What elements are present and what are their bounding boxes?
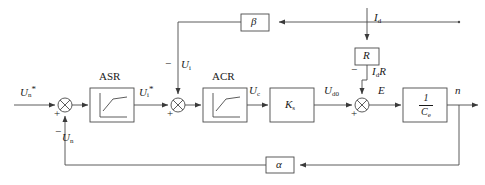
signal-un-feedback: Un bbox=[62, 132, 73, 145]
beta-label: β bbox=[251, 16, 256, 27]
asterisk: * bbox=[31, 84, 36, 94]
r-label: R bbox=[363, 50, 370, 61]
signal-idr: IdR bbox=[372, 66, 386, 79]
sign-summer3-minus: − bbox=[351, 64, 357, 75]
sign-summer1-minus: − bbox=[55, 126, 61, 137]
ce-denominator: Ce bbox=[418, 107, 434, 119]
idr-resistance: R bbox=[379, 65, 386, 77]
ks-label: Ks bbox=[285, 99, 295, 112]
sign-summer2-plus: + bbox=[167, 108, 173, 119]
sign-summer1-plus: + bbox=[54, 108, 60, 119]
acr-caption: ACR bbox=[212, 71, 235, 82]
signal-un-ref: Un* bbox=[20, 85, 36, 99]
asr-caption: ASR bbox=[99, 71, 120, 82]
signal-n: n bbox=[455, 85, 461, 96]
asterisk: * bbox=[149, 84, 154, 94]
signal-ui-feedback: Ui bbox=[181, 59, 191, 72]
ks-subscript: s bbox=[292, 104, 295, 112]
signal-ud0: Ud0 bbox=[324, 85, 339, 98]
signal-uc: Uc bbox=[249, 85, 260, 98]
sign-summer3-plus: + bbox=[351, 108, 357, 119]
ce-fraction: 1 Ce bbox=[418, 93, 434, 118]
ce-numerator: 1 bbox=[418, 93, 434, 104]
alpha-label: α bbox=[276, 159, 282, 170]
signal-e: E bbox=[378, 85, 385, 96]
sign-summer2-minus: − bbox=[165, 58, 171, 69]
block-diagram-canvas: ASR ACR Ks 1 Ce β R α Un* Ui* Ui Uc Ud0 … bbox=[0, 0, 485, 185]
diagram-vector-layer bbox=[0, 0, 485, 185]
signal-ui-ref: Ui* bbox=[139, 85, 153, 99]
signal-id: Id bbox=[374, 12, 381, 25]
